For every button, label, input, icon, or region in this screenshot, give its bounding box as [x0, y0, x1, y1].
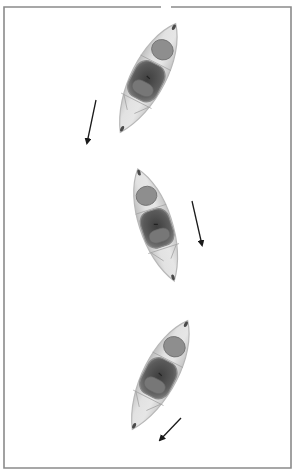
- kayak-2: [122, 164, 190, 286]
- kayak-1: [105, 16, 191, 140]
- arrow-1-icon: [87, 100, 96, 143]
- diagram-canvas: [0, 0, 295, 473]
- kayak-3: [117, 313, 203, 437]
- kayak-diagram: [0, 0, 295, 473]
- arrow-3-icon: [160, 418, 181, 440]
- arrow-2-icon: [192, 201, 202, 245]
- kayaks: [105, 16, 203, 437]
